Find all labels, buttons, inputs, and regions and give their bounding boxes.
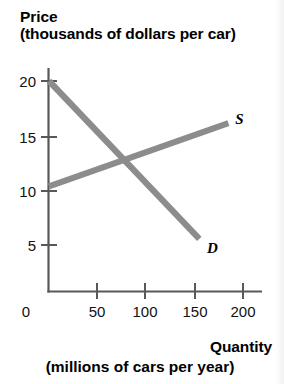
x-tick-label-200: 200: [230, 303, 255, 320]
y-tick-label-15: 15: [8, 129, 36, 146]
plot-area: [0, 0, 284, 384]
x-axis-title: Quantity: [210, 338, 272, 355]
x-tick-label-50: 50: [89, 303, 106, 320]
origin-label: 0: [22, 303, 30, 320]
y-tick-label-10: 10: [8, 183, 36, 200]
supply-curve-label: S: [235, 111, 243, 128]
x-axis-caption: (millions of cars per year): [0, 358, 280, 376]
x-tick-label-150: 150: [182, 303, 207, 320]
demand-curve-label: D: [207, 240, 218, 257]
x-tick-label-100: 100: [132, 303, 157, 320]
y-tick-label-20: 20: [8, 73, 36, 90]
chart-figure: Price (thousands of dollars per car) 20 …: [0, 0, 284, 384]
y-tick-label-5: 5: [8, 237, 36, 254]
